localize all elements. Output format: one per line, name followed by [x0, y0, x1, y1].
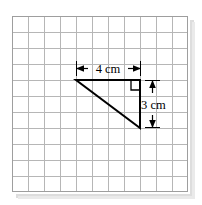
- height-dimension-label: 3 cm: [141, 98, 166, 112]
- figure-canvas: 4 cm 3 cm: [0, 0, 202, 205]
- base-dimension-label: 4 cm: [96, 62, 121, 76]
- geometry-diagram: 4 cm 3 cm: [0, 0, 202, 205]
